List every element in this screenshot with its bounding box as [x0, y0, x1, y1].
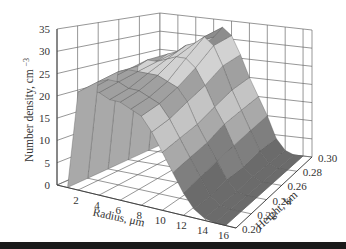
z-tick-label: 5: [45, 157, 51, 169]
z-tick-label: 35: [39, 23, 51, 35]
z-tick-label: 25: [39, 68, 51, 80]
y-tick-label: 0.28: [303, 166, 323, 178]
z-tick-label: 0: [45, 179, 51, 191]
x-tick-label: 16: [218, 229, 230, 241]
y-tick-label: 0.30: [318, 152, 338, 164]
z-axis-ticks: 05101520253035: [39, 23, 51, 191]
z-tick-label: 10: [39, 134, 51, 146]
z-axis-label: Number density, cm −3: [22, 58, 37, 162]
surface-plot: 05101520253035 246810121416 0.200.220.24…: [0, 0, 346, 249]
x-tick-label: 2: [73, 194, 79, 206]
x-tick-label: 14: [197, 224, 209, 236]
z-tick-label: 20: [39, 90, 51, 102]
page-bottom-border: [0, 242, 346, 249]
x-tick-label: 10: [155, 214, 167, 226]
x-tick-label: 12: [176, 219, 187, 231]
z-tick-label: 30: [39, 45, 51, 57]
z-tick-label: 15: [39, 112, 51, 124]
